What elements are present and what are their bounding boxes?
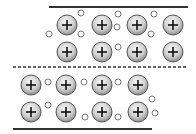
electron-icon <box>78 10 84 16</box>
positive-ion-icon <box>56 102 76 122</box>
electron-icon <box>115 11 121 17</box>
positive-ion-icon <box>127 15 147 35</box>
top-layer <box>46 7 188 62</box>
electron-icon <box>151 11 157 17</box>
electron-icon <box>45 79 51 85</box>
positive-ion-icon <box>92 75 112 95</box>
positive-ion-icon <box>21 102 41 122</box>
metallic-bonding-diagram <box>0 0 196 134</box>
positive-ion-icon <box>57 42 77 62</box>
positive-ion-icon <box>92 42 112 62</box>
electron-icon <box>45 102 51 108</box>
electron-icon <box>82 114 88 120</box>
positive-ion-icon <box>163 42 183 62</box>
positive-ion-icon <box>56 75 76 95</box>
electron-icon <box>115 44 121 50</box>
positive-ion-icon <box>57 15 77 35</box>
electron-icon <box>149 96 155 102</box>
positive-ion-icon <box>127 42 147 62</box>
positive-ion-icon <box>92 102 112 122</box>
positive-ion-icon <box>128 75 148 95</box>
electron-icon <box>152 110 158 116</box>
electron-icon <box>78 31 84 37</box>
positive-ion-icon <box>21 75 41 95</box>
positive-ion-icon <box>163 15 183 35</box>
positive-ion-icon <box>128 102 148 122</box>
bottom-layer <box>13 75 158 129</box>
electron-icon <box>115 114 121 120</box>
electron-icon <box>46 31 52 37</box>
electron-icon <box>114 24 120 30</box>
positive-ion-icon <box>92 15 112 35</box>
electron-icon <box>81 79 87 85</box>
electron-icon <box>148 31 154 37</box>
electron-icon <box>115 79 121 85</box>
